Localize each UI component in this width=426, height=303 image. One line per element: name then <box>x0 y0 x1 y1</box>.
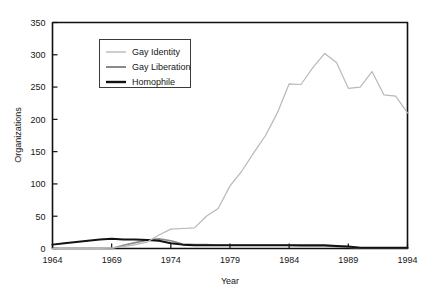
y-tick-label: 0 <box>40 244 45 254</box>
x-tick-label: 1989 <box>338 255 358 265</box>
legend-label-homophile: Homophile <box>132 77 175 87</box>
x-axis-title: Year <box>221 276 239 286</box>
y-tick-label: 350 <box>30 18 45 28</box>
x-axis-tick-labels: 1964196919741979198419891994 <box>42 255 417 265</box>
y-tick-label: 200 <box>30 115 45 125</box>
y-axis-tick-labels: 050100150200250300350 <box>30 18 45 254</box>
chart-canvas: 050100150200250300350 196419691974197919… <box>0 0 426 303</box>
y-tick-label: 100 <box>30 179 45 189</box>
y-tick-label: 50 <box>35 212 45 222</box>
y-axis-title: Organizations <box>13 107 23 163</box>
x-tick-label: 1969 <box>102 255 122 265</box>
y-tick-label: 300 <box>30 50 45 60</box>
line-chart-figure: 050100150200250300350 196419691974197919… <box>0 0 426 303</box>
y-tick-label: 250 <box>30 82 45 92</box>
x-tick-label: 1994 <box>397 255 417 265</box>
x-tick-label: 1974 <box>161 255 181 265</box>
y-tick-label: 150 <box>30 147 45 157</box>
legend-label-gay-identity: Gay Identity <box>132 47 181 57</box>
legend: Gay IdentityGay LiberationHomophile <box>100 40 191 88</box>
x-tick-label: 1979 <box>220 255 240 265</box>
legend-label-gay-liberation: Gay Liberation <box>132 62 191 72</box>
x-tick-label: 1984 <box>279 255 299 265</box>
x-tick-label: 1964 <box>42 255 62 265</box>
